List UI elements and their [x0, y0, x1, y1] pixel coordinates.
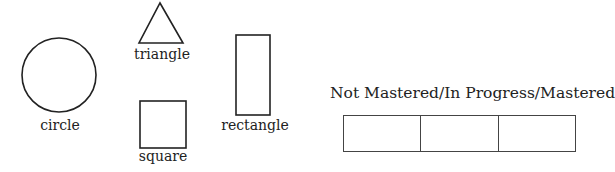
shapes-drawing — [0, 0, 300, 172]
in-progress-cell[interactable] — [421, 116, 498, 151]
circle-label: circle — [40, 117, 80, 133]
mastered-cell[interactable] — [499, 116, 575, 151]
triangle-shape — [139, 3, 183, 43]
square-shape — [140, 101, 186, 148]
mastery-table — [343, 115, 576, 152]
triangle-label: triangle — [134, 46, 190, 62]
mastery-title: Not Mastered/In Progress/Mastered — [330, 84, 615, 102]
rectangle-label: rectangle — [221, 117, 289, 133]
rectangle-shape — [236, 35, 270, 115]
not-mastered-cell[interactable] — [344, 116, 421, 151]
circle-shape — [22, 38, 96, 112]
square-label: square — [139, 148, 188, 164]
